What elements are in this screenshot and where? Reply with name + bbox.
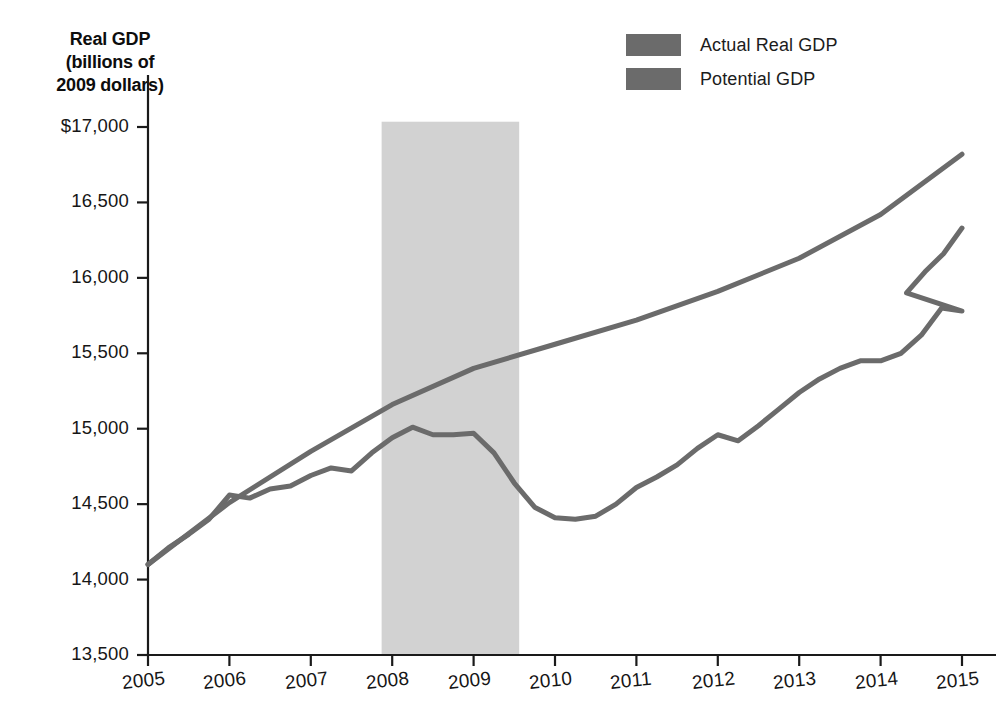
plot-area	[0, 0, 1000, 708]
x-tick-label: 2006	[202, 667, 247, 693]
x-tick-label: 2013	[772, 667, 817, 693]
y-tick-label: 14,500	[9, 492, 129, 514]
y-tick-label: 13,500	[9, 643, 129, 665]
gdp-line-chart: Real GDP (billions of 2009 dollars) Actu…	[0, 0, 1000, 708]
recession-band	[382, 122, 520, 655]
series-line-actual-real-gdp	[148, 228, 962, 564]
axis-ticks-layer	[137, 127, 962, 666]
x-tick-label: 2014	[854, 667, 899, 693]
x-tick-label: 2015	[935, 667, 980, 693]
y-tick-label: 15,500	[9, 341, 129, 363]
x-tick-label: 2009	[447, 667, 492, 693]
data-series-layer	[148, 154, 962, 564]
y-tick-label: $17,000	[9, 115, 129, 137]
x-tick-label: 2012	[691, 667, 736, 693]
y-tick-label: 16,500	[9, 190, 129, 212]
x-tick-label: 2005	[121, 667, 166, 693]
y-tick-label: 16,000	[9, 266, 129, 288]
series-line-potential-gdp	[148, 154, 962, 564]
y-tick-label: 14,000	[9, 568, 129, 590]
recession-band-layer	[382, 122, 520, 655]
y-tick-label: 15,000	[9, 417, 129, 439]
axis-lines-layer	[148, 75, 996, 655]
x-tick-label: 2010	[528, 667, 573, 693]
x-tick-label: 2011	[609, 668, 653, 694]
x-tick-label: 2008	[365, 667, 410, 693]
x-tick-label: 2007	[284, 667, 329, 693]
